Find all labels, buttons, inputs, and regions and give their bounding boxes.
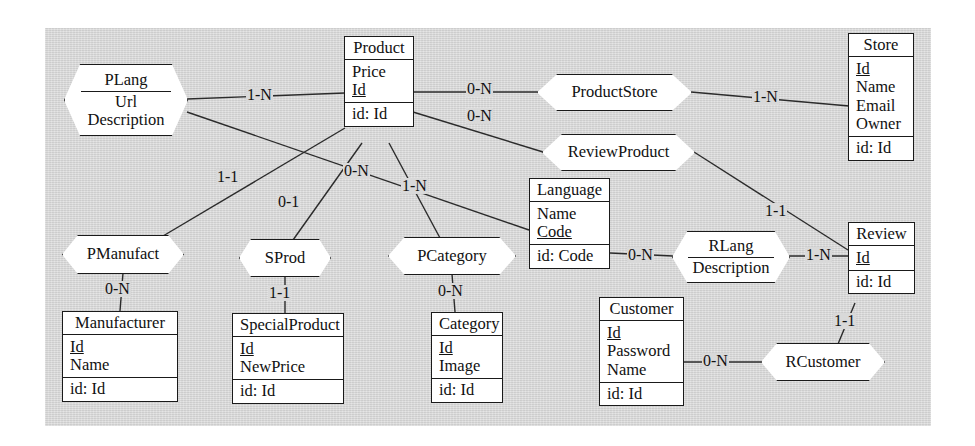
entity-review[interactable]: Review Id id: Id [848,222,915,294]
entity-store-attr-email: Email [856,96,906,114]
entity-category-attr-image: Image [439,357,495,375]
relationship-productstore[interactable]: ProductStore [537,74,692,111]
cardinality-pmanufact-product: 1-1 [216,169,239,185]
entity-store-attr-owner: Owner [856,115,906,133]
entity-product-attributes: Price Id [345,60,413,103]
entity-category[interactable]: Category Id Image id: Id [431,312,503,403]
entity-customer-attr-name: Name [607,360,676,378]
relationship-plang[interactable]: PLang Url Description [64,64,188,136]
relationship-plang-name: PLang [104,71,147,90]
relationship-pcategory-name: PCategory [417,247,487,265]
cardinality-rcustomer-review: 1-1 [833,313,856,329]
entity-specialproduct[interactable]: SpecialProduct Id NewPrice id: Id [232,313,344,404]
entity-language-attr-code: Code [537,223,602,241]
cardinality-sprod-product: 0-1 [277,194,300,210]
entity-product-attr-price: Price [352,62,406,80]
entity-manufacturer-attr-id: Id [70,337,170,355]
entity-store-attr-id: Id [856,59,906,77]
relationship-rlang[interactable]: RLang Description [672,231,790,283]
entity-language-attr-name: Name [537,204,602,222]
entity-product-identifier: id: Id [345,103,413,125]
entity-manufacturer-identifier: id: Id [63,378,177,400]
entity-manufacturer-attr-name: Name [70,356,170,374]
relationship-pmanufact[interactable]: PManufact [62,235,184,274]
relationship-rcustomer[interactable]: RCustomer [761,343,885,381]
entity-language-title: Language [530,179,609,202]
entity-category-attributes: Id Image [432,336,502,379]
cardinality-product-productstore: 0-N [466,81,493,97]
relationship-rcustomer-name: RCustomer [785,353,860,371]
entity-review-attributes: Id [849,246,914,270]
entity-specialproduct-title: SpecialProduct [233,314,343,337]
cardinality-product-reviewproduct: 0-N [466,108,493,124]
relationship-rlang-attr-description: Description [693,259,770,277]
entity-category-title: Category [432,313,502,336]
entity-specialproduct-identifier: id: Id [233,380,343,402]
er-diagram: PLang Url Description ProductStore Revie… [0,0,975,446]
entity-customer-attr-password: Password [607,342,676,360]
entity-language-attributes: Name Code [530,202,609,245]
entity-category-identifier: id: Id [432,379,502,401]
entity-review-title: Review [849,223,914,246]
relationship-reviewproduct[interactable]: ReviewProduct [542,134,695,171]
relationship-productstore-name: ProductStore [571,83,657,101]
relationship-reviewproduct-name: ReviewProduct [568,143,670,161]
entity-specialproduct-attr-newprice: NewPrice [240,358,336,376]
cardinality-rlang-review: 1-N [805,247,832,263]
cardinality-sprod-specialproduct: 1-1 [268,285,291,301]
cardinality-customer-rcustomer: 0-N [702,353,729,369]
entity-store-attributes: Id Name Email Owner [849,57,913,137]
cardinality-plang-language: 0-N [343,163,370,179]
entity-customer[interactable]: Customer Id Password Name id: Id [599,297,684,406]
entity-customer-identifier: id: Id [600,383,683,405]
entity-review-attr-id: Id [856,248,907,266]
entity-customer-attributes: Id Password Name [600,321,683,382]
entity-manufacturer-title: Manufacturer [63,312,177,335]
relationship-plang-attr-url: Url [115,93,137,111]
entity-customer-attr-id: Id [607,323,676,341]
entity-specialproduct-attr-id: Id [240,339,336,357]
cardinality-product-pcategory: 1-N [401,178,428,194]
entity-manufacturer-attributes: Id Name [63,335,177,378]
entity-specialproduct-attributes: Id NewPrice [233,337,343,380]
relationship-pcategory[interactable]: PCategory [388,237,516,275]
entity-language[interactable]: Language Name Code id: Code [529,178,610,269]
entity-store-attr-name: Name [856,78,906,96]
cardinality-reviewproduct-review: 1-1 [764,203,787,219]
entity-store-identifier: id: Id [849,137,913,159]
relationship-sprod-name: SProd [265,249,305,267]
relationship-pmanufact-name: PManufact [87,245,159,263]
cardinality-pcategory-category: 0-N [437,283,464,299]
entity-store[interactable]: Store Id Name Email Owner id: Id [848,33,914,161]
entity-store-title: Store [849,34,913,57]
entity-product[interactable]: Product Price Id id: Id [344,36,414,127]
entity-product-attr-id: Id [352,81,406,99]
relationship-rlang-name: RLang [709,237,754,256]
entity-review-identifier: id: Id [849,271,914,293]
cardinality-pmanufact-manufacturer: 0-N [104,281,131,297]
entity-category-attr-id: Id [439,338,495,356]
relationship-sprod[interactable]: SProd [239,239,331,277]
cardinality-productstore-store: 1-N [752,89,779,105]
entity-language-identifier: id: Code [530,245,609,267]
entity-manufacturer[interactable]: Manufacturer Id Name id: Id [62,311,178,402]
entity-product-title: Product [345,37,413,60]
cardinality-plang-product: 1-N [246,87,273,103]
relationship-plang-attr-description: Description [88,111,165,129]
cardinality-language-rlang: 0-N [627,247,654,263]
entity-customer-title: Customer [600,298,683,321]
